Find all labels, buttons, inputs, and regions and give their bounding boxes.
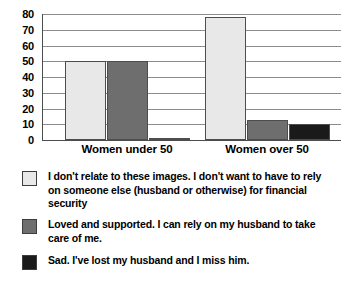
- x-category-label-2: Women over 50: [204, 143, 330, 155]
- gridline-0: [43, 140, 341, 141]
- bar-group-1-series-1: [65, 61, 106, 140]
- y-tick-label-40: 40: [22, 72, 34, 83]
- legend-label-2: Loved and supported. I can rely on my hu…: [48, 218, 334, 245]
- legend-swatch-1: [22, 171, 37, 186]
- bar-group-2-series-1: [205, 17, 246, 140]
- x-axis-category-labels: Women under 50Women over 50: [42, 143, 340, 163]
- y-tick-label-20: 20: [22, 103, 34, 114]
- bar-group-1-series-3: [149, 138, 190, 140]
- legend-label-3: Sad. I've lost my husband and I miss him…: [48, 254, 249, 268]
- x-category-label-1: Women under 50: [64, 143, 190, 155]
- legend-entry-3: Sad. I've lost my husband and I miss him…: [22, 254, 334, 270]
- chart-page: 80706050403020100 Women under 50Women ov…: [0, 0, 349, 291]
- y-tick-label-60: 60: [22, 40, 34, 51]
- legend-entry-2: Loved and supported. I can rely on my hu…: [22, 218, 334, 245]
- legend-swatch-3: [22, 255, 37, 270]
- y-tick-label-0: 0: [28, 135, 34, 146]
- chart-legend: I don't relate to these images. I don't …: [22, 170, 334, 288]
- y-tick-label-50: 50: [22, 56, 34, 67]
- y-axis-tick-labels: 80706050403020100: [0, 14, 38, 140]
- plot-area: [42, 14, 341, 141]
- y-tick-label-80: 80: [22, 9, 34, 20]
- legend-swatch-2: [22, 219, 37, 234]
- y-tick-label-10: 10: [22, 119, 34, 130]
- bar-chart: 80706050403020100 Women under 50Women ov…: [0, 0, 349, 168]
- bar-group-1-series-2: [107, 61, 148, 140]
- bar-series-container: [43, 14, 341, 140]
- y-tick-label-30: 30: [22, 87, 34, 98]
- bar-group-2-series-2: [247, 120, 288, 140]
- y-tick-label-70: 70: [22, 24, 34, 35]
- bar-group-2-series-3: [289, 124, 330, 140]
- legend-entry-1: I don't relate to these images. I don't …: [22, 170, 334, 211]
- legend-label-1: I don't relate to these images. I don't …: [48, 170, 334, 211]
